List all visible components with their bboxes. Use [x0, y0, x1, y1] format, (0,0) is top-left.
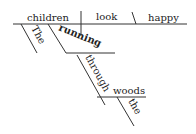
- participle-word: running: [57, 22, 103, 49]
- sentence-diagram: children look happy The running through …: [0, 0, 196, 134]
- object-modifier-word: the: [126, 97, 144, 117]
- complement-word: happy: [148, 12, 179, 23]
- object-word: woods: [113, 85, 145, 96]
- verb-word: look: [96, 11, 118, 22]
- subject-modifier-word: The: [29, 24, 48, 46]
- complement-divider: [132, 12, 136, 24]
